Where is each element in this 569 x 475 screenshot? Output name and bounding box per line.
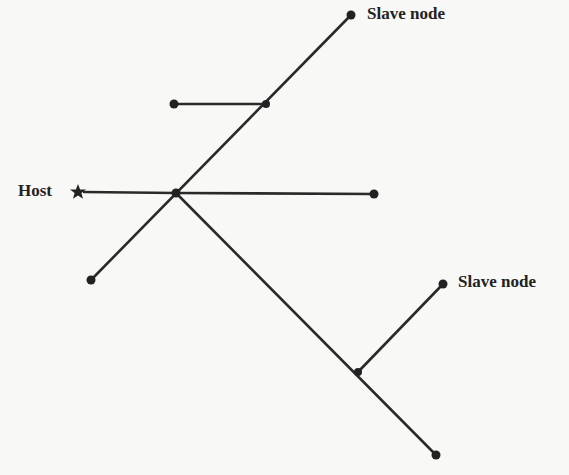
edge-host-to-junction bbox=[84, 192, 176, 193]
slave-node-top-label: Slave node bbox=[367, 4, 445, 24]
diagram-graphic bbox=[0, 0, 569, 475]
edge-bottomleft-to-slave-top bbox=[91, 15, 351, 280]
host-star-icon bbox=[70, 184, 86, 199]
edge-junction-to-bottom-right bbox=[176, 193, 436, 455]
host-label: Host bbox=[18, 181, 52, 201]
edge-junction-to-right bbox=[176, 193, 374, 194]
node-junction-upper bbox=[262, 100, 270, 108]
node-slave-top bbox=[347, 11, 356, 20]
node-junction-main bbox=[172, 189, 181, 198]
slave-node-right-label: Slave node bbox=[458, 272, 536, 292]
node-slave-right bbox=[439, 280, 448, 289]
node-junction-lower bbox=[354, 368, 362, 376]
node-branch-right bbox=[370, 190, 379, 199]
network-diagram: Host Slave node Slave node bbox=[0, 0, 569, 475]
edge-lower-junction-to-slave-right bbox=[358, 284, 443, 372]
node-branch-bottom-right bbox=[432, 451, 441, 460]
node-branch-left bbox=[170, 100, 179, 109]
node-branch-bottom-left bbox=[87, 276, 96, 285]
